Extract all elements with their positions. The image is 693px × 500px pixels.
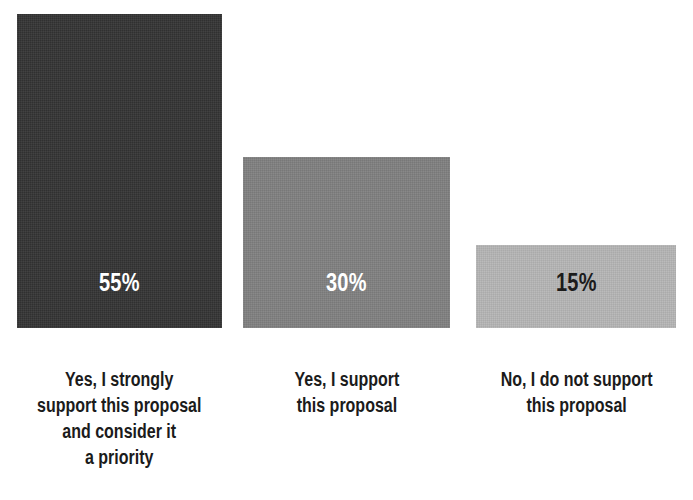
bar-group-not-support: 15%	[476, 245, 676, 328]
category-label-text: Yes, I strongly support this proposal an…	[37, 366, 201, 470]
bar-not-support[interactable]: 15%	[476, 245, 676, 328]
bar-value-label-support: 30%	[326, 270, 367, 295]
bar-support[interactable]: 30%	[243, 157, 450, 328]
category-label-text: Yes, I support this proposal	[294, 366, 399, 418]
bar-chart: 55% 30% 15% Yes, I strongly support this…	[0, 0, 693, 500]
plot-area: 55% 30% 15%	[0, 0, 693, 328]
category-label-support: Yes, I support this proposal	[238, 340, 455, 418]
category-label-text: No, I do not support this proposal	[501, 366, 653, 418]
bar-group-strongly-support: 55%	[17, 14, 222, 328]
category-label-strongly-support: Yes, I strongly support this proposal an…	[8, 340, 231, 470]
bar-value-label-not-support: 15%	[556, 270, 597, 295]
bar-strongly-support[interactable]: 55%	[17, 14, 222, 328]
bar-value-label-strongly-support: 55%	[99, 270, 140, 295]
category-label-not-support: No, I do not support this proposal	[466, 340, 687, 418]
bar-group-support: 30%	[243, 157, 450, 328]
